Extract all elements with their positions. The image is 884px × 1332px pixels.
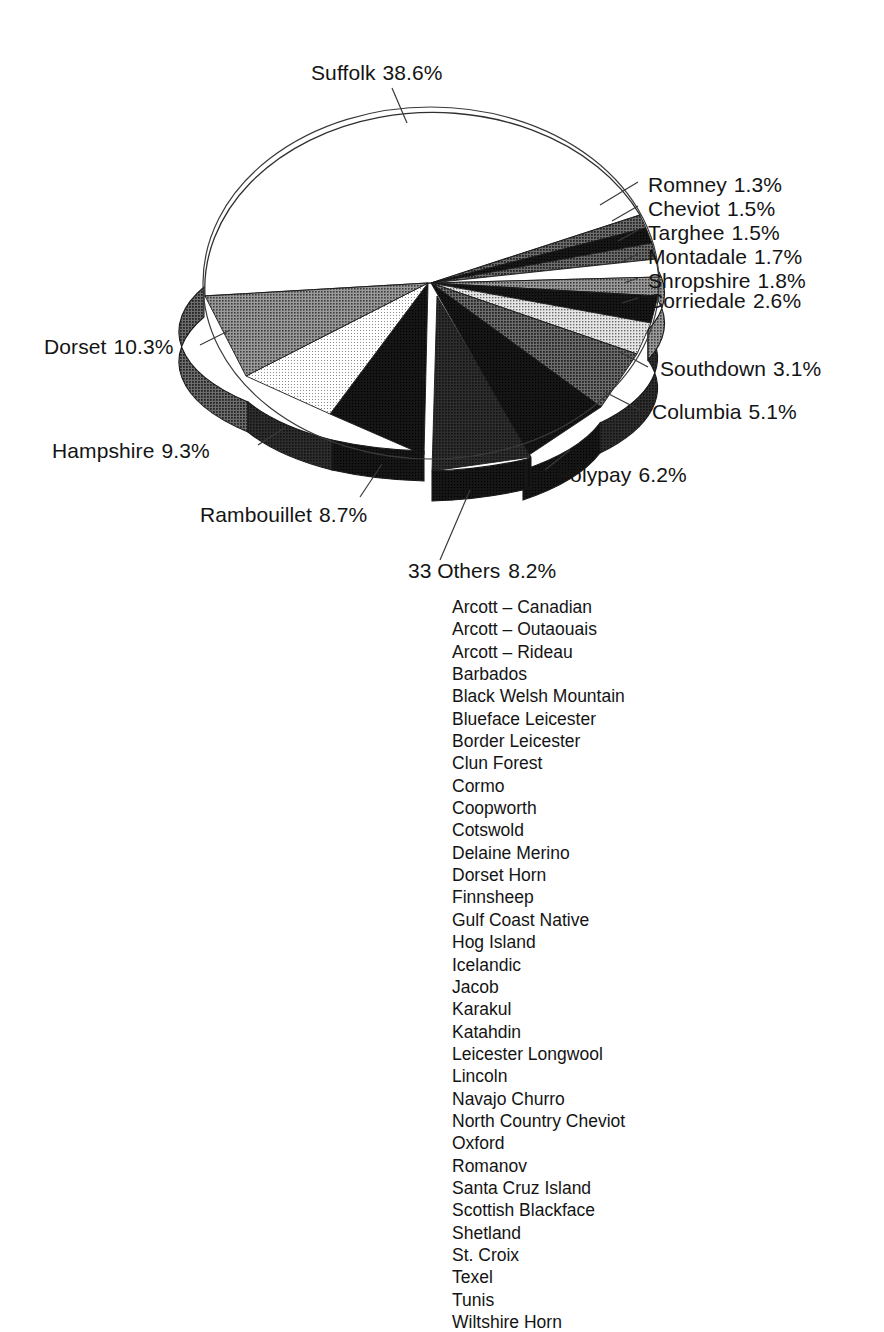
slice-label-suffolk-pct: 38.6% (383, 61, 443, 84)
slice-label-southdown-pct: 3.1% (773, 357, 821, 380)
others-breed-list: Arcott – Canadian Arcott – Outaouais Arc… (452, 596, 625, 1332)
slice-label-corriedale-name: Corriedale (648, 289, 746, 312)
list-item: Jacob (452, 976, 625, 998)
list-item: Navajo Churro (452, 1088, 625, 1110)
list-item: Shetland (452, 1222, 625, 1244)
list-item: Coopworth (452, 797, 625, 819)
slice-label-polypay: Polypay6.2% (556, 464, 687, 485)
list-item: Lincoln (452, 1065, 625, 1087)
slice-label-rambouillet-pct: 8.7% (319, 503, 367, 526)
list-item: Barbados (452, 663, 625, 685)
slice-label-hampshire: Hampshire9.3% (52, 440, 210, 461)
list-item: Arcott – Rideau (452, 641, 625, 663)
list-item: Gulf Coast Native (452, 909, 625, 931)
slice-label-targhee-name: Targhee (648, 221, 725, 244)
list-item: Cotswold (452, 819, 625, 841)
slice-label-others-name: 33 Others (408, 559, 500, 582)
list-item: Oxford (452, 1132, 625, 1154)
slice-label-romney: Romney1.3% (648, 174, 782, 195)
slice-label-romney-name: Romney (648, 173, 727, 196)
slice-label-polypay-pct: 6.2% (638, 463, 686, 486)
list-item: Leicester Longwool (452, 1043, 625, 1065)
list-item: Black Welsh Mountain (452, 685, 625, 707)
list-item: North Country Cheviot (452, 1110, 625, 1132)
slice-label-columbia-name: Columbia (652, 400, 742, 423)
slice-label-rambouillet-name: Rambouillet (200, 503, 312, 526)
slice-label-montadale-name: Montadale (648, 245, 747, 268)
list-item: Scottish Blackface (452, 1199, 625, 1221)
slice-label-cheviot-pct: 1.5% (727, 197, 775, 220)
list-item: Santa Cruz Island (452, 1177, 625, 1199)
slice-label-targhee-pct: 1.5% (732, 221, 780, 244)
slice-label-montadale-pct: 1.7% (754, 245, 802, 268)
list-item: St. Croix (452, 1244, 625, 1266)
slice-label-corriedale-pct: 2.6% (753, 289, 801, 312)
slice-label-corriedale: Corriedale2.6% (648, 290, 801, 311)
list-item: Clun Forest (452, 752, 625, 774)
slice-label-shropshire: Shropshire1.8% (648, 270, 806, 291)
slice-label-polypay-name: Polypay (556, 463, 631, 486)
list-item: Arcott – Canadian (452, 596, 625, 618)
list-item: Cormo (452, 775, 625, 797)
slice-label-suffolk: Suffolk38.6% (311, 62, 443, 83)
slice-label-romney-pct: 1.3% (734, 173, 782, 196)
list-item: Wiltshire Horn (452, 1311, 625, 1332)
slice-label-dorset-name: Dorset (44, 335, 106, 358)
list-item: Border Leicester (452, 730, 625, 752)
leader-dorset (200, 330, 230, 345)
list-item: Blueface Leicester (452, 708, 625, 730)
slice-label-cheviot: Cheviot1.5% (648, 198, 775, 219)
slice-label-rambouillet: Rambouillet8.7% (200, 504, 367, 525)
list-item: Dorset Horn (452, 864, 625, 886)
list-item: Finnsheep (452, 886, 625, 908)
slice-label-southdown-name: Southdown (660, 357, 766, 380)
slice-label-dorset: Dorset10.3% (44, 336, 174, 357)
slice-label-cheviot-name: Cheviot (648, 197, 720, 220)
list-item: Karakul (452, 998, 625, 1020)
list-item: Icelandic (452, 954, 625, 976)
list-item: Katahdin (452, 1021, 625, 1043)
slice-label-montadale: Montadale1.7% (648, 246, 802, 267)
list-item: Arcott – Outaouais (452, 618, 625, 640)
slice-label-dorset-pct: 10.3% (113, 335, 173, 358)
list-item: Delaine Merino (452, 842, 625, 864)
list-item: Tunis (452, 1289, 625, 1311)
slice-label-hampshire-name: Hampshire (52, 439, 154, 462)
slice-label-columbia-pct: 5.1% (749, 400, 797, 423)
slice-label-others: 33 Others8.2% (408, 560, 556, 581)
list-item: Romanov (452, 1155, 625, 1177)
slice-label-others-pct: 8.2% (508, 559, 556, 582)
slice-label-southdown: Southdown3.1% (660, 358, 821, 379)
slice-label-columbia: Columbia5.1% (652, 401, 797, 422)
list-item: Hog Island (452, 931, 625, 953)
list-item: Texel (452, 1266, 625, 1288)
slice-label-targhee: Targhee1.5% (648, 222, 780, 243)
slice-label-hampshire-pct: 9.3% (161, 439, 209, 462)
pie-slice-tops (203, 107, 659, 471)
slice-label-suffolk-name: Suffolk (311, 61, 376, 84)
